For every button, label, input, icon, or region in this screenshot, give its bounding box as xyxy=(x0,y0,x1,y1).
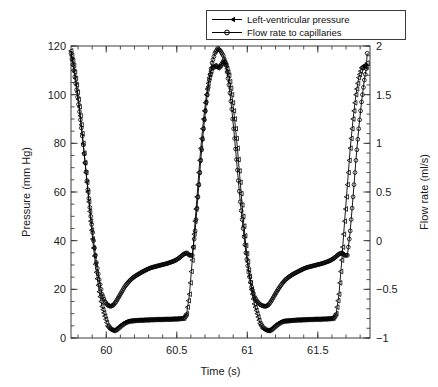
y2-tick-label: 1.5 xyxy=(376,89,391,101)
series-left-ventricular-pressure xyxy=(69,49,369,333)
y-axis-title: Pressure (mm Hg) xyxy=(20,147,32,237)
legend-item-pressure: Left-ventricular pressure xyxy=(211,13,401,26)
legend-label-flow: Flow rate to capillaries xyxy=(247,27,342,38)
y2-tick-label: 1 xyxy=(376,137,382,149)
y-tick-label: 20 xyxy=(54,283,66,295)
legend-marker-left-triangle xyxy=(211,14,243,25)
y2-tick-label: 2 xyxy=(376,40,382,52)
legend-marker-circle xyxy=(211,27,243,38)
y-tick-label: 60 xyxy=(54,186,66,198)
legend-label-pressure: Left-ventricular pressure xyxy=(247,14,349,25)
y2-tick-label: 0.5 xyxy=(376,186,391,198)
y2-axis-title: Flow rate (ml/s) xyxy=(418,154,430,230)
x-tick-label: 60.5 xyxy=(166,344,187,356)
figure: Pressure (mm Hg) Flow rate (ml/s) Time (… xyxy=(0,0,438,387)
y-tick-label: 100 xyxy=(48,89,66,101)
x-tick-label: 61 xyxy=(241,344,253,356)
legend: Left-ventricular pressure Flow rate to c… xyxy=(206,10,406,40)
y2-tick-label: −0.5 xyxy=(376,283,398,295)
y-tick-label: 40 xyxy=(54,235,66,247)
legend-item-flow: Flow rate to capillaries xyxy=(211,26,401,39)
y2-tick-label: 0 xyxy=(376,235,382,247)
x-tick-label: 61.5 xyxy=(307,344,328,356)
y-tick-label: 120 xyxy=(48,40,66,52)
y2-tick-label: −1 xyxy=(376,332,389,344)
x-axis-title: Time (s) xyxy=(201,365,241,377)
y-tick-label: 80 xyxy=(54,137,66,149)
series-flow-rate-to-capillaries xyxy=(69,47,369,309)
y-tick-label: 0 xyxy=(60,332,66,344)
x-tick-label: 60 xyxy=(100,344,112,356)
